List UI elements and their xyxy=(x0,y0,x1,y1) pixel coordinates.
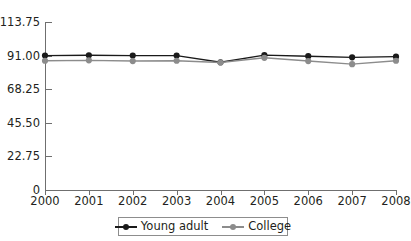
legend-label: College xyxy=(248,220,291,233)
series-line xyxy=(45,55,396,62)
x-tick-label: 2007 xyxy=(337,195,366,208)
legend-item-young-adult: Young adult xyxy=(115,220,208,233)
series-college xyxy=(42,55,399,68)
data-point xyxy=(349,54,355,60)
chart-legend: Young adultCollege xyxy=(118,217,288,236)
y-tick-label: 113.75 xyxy=(0,16,40,28)
y-tick-label: 45.50 xyxy=(7,117,40,129)
data-point xyxy=(393,54,399,60)
data-point xyxy=(393,58,399,64)
data-point xyxy=(217,59,223,65)
series-line xyxy=(45,58,396,64)
x-tick-label: 2005 xyxy=(250,195,279,208)
x-tick-label: 2003 xyxy=(162,195,191,208)
data-point xyxy=(130,58,136,64)
y-axis-line xyxy=(45,22,46,191)
data-point xyxy=(86,52,92,58)
data-point xyxy=(130,53,136,59)
data-point xyxy=(305,53,311,59)
x-tick-label: 2001 xyxy=(74,195,103,208)
data-point xyxy=(174,58,180,64)
data-point xyxy=(217,59,223,65)
y-tick-mark xyxy=(46,123,52,124)
data-point xyxy=(174,53,180,59)
y-tick-mark xyxy=(46,56,52,57)
x-tick-label: 2002 xyxy=(118,195,147,208)
data-point xyxy=(261,52,267,58)
data-point xyxy=(349,61,355,67)
y-tick-mark xyxy=(46,156,52,157)
y-tick-mark xyxy=(46,190,52,191)
legend-item-college: College xyxy=(222,220,291,233)
x-tick-label: 2006 xyxy=(294,195,323,208)
legend-label: Young adult xyxy=(141,220,208,233)
y-tick-mark xyxy=(46,89,52,90)
series-young-adult xyxy=(42,52,399,65)
data-point xyxy=(261,55,267,61)
x-tick-label: 2008 xyxy=(381,195,410,208)
legend-marker-icon xyxy=(115,222,137,231)
data-point xyxy=(305,58,311,64)
data-point xyxy=(86,57,92,63)
legend-marker-icon xyxy=(222,222,244,231)
x-tick-label: 2000 xyxy=(30,195,59,208)
y-tick-mark xyxy=(46,22,52,23)
y-tick-label: 22.75 xyxy=(7,150,40,162)
y-tick-label: 91.00 xyxy=(7,50,40,62)
x-tick-label: 2004 xyxy=(206,195,235,208)
y-tick-label: 68.25 xyxy=(7,83,40,95)
